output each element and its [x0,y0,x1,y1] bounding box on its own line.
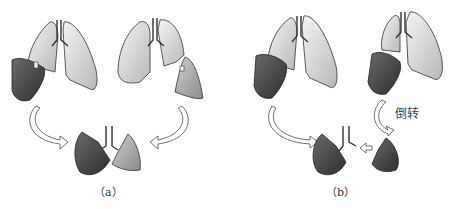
lung-transplant-diagram: （a） （b） 倒转 [0,0,463,209]
small-arrow-left [360,143,372,153]
curved-arrow-left [30,106,68,149]
donor-lungs-left [12,20,97,101]
caption-a: （a） [94,186,123,199]
curved-arrow-right [150,106,188,149]
curved-arrow-b-left [269,106,318,148]
donor-lungs-b-right [368,12,442,95]
flip-arrow [374,100,394,136]
donor-lungs-b-left [254,16,337,99]
caption-b: （b） [326,186,355,199]
panel-a: （a） [12,18,203,199]
donor-lungs-right [118,18,203,99]
panel-b: （b） 倒转 [254,12,442,199]
recipient-lungs-a [75,126,140,175]
flip-label: 倒转 [395,106,419,121]
